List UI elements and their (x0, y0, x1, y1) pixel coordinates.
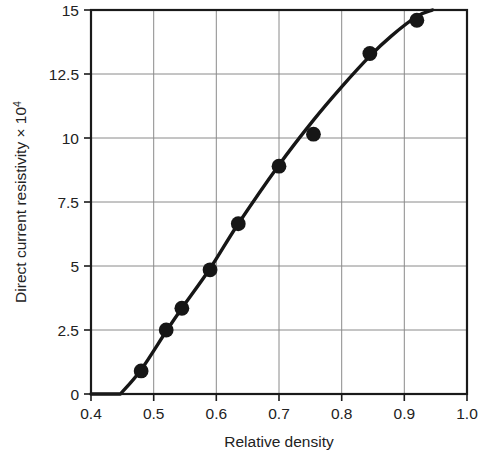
y-tick-label-3: 7.5 (57, 194, 79, 211)
data-point-3 (174, 301, 189, 316)
x-tick-label-5: 0.9 (394, 405, 416, 422)
y-axis-title-group: Direct current resistivity × 104 (11, 101, 29, 303)
x-tick-label-1: 0.5 (143, 405, 165, 422)
data-point-7 (306, 127, 321, 142)
x-tick-label-4: 0.8 (331, 405, 353, 422)
x-tick-label-0: 0.4 (80, 405, 102, 422)
y-axis-title-exponent: 4 (11, 101, 23, 107)
x-tick-label-2: 0.6 (206, 405, 228, 422)
y-tick-label-5: 12.5 (49, 66, 79, 83)
x-axis-title: Relative density (224, 433, 334, 450)
y-axis-title-mantissa: × 10 (12, 107, 29, 138)
y-tick-label-2: 5 (70, 258, 79, 275)
data-point-5 (231, 216, 246, 231)
data-point-1 (134, 364, 149, 379)
x-tick-label-3: 0.7 (268, 405, 290, 422)
data-point-8 (362, 46, 377, 61)
y-tick-label-6: 15 (62, 2, 79, 19)
data-point-6 (272, 159, 287, 174)
data-point-9 (409, 13, 424, 28)
y-axis-title: Direct current resistivity × 104 (11, 101, 29, 303)
y-tick-label-4: 10 (62, 130, 80, 147)
y-tick-label-0: 0 (70, 386, 79, 403)
resistivity-vs-density-chart: 15 12.5 10 7.5 5 2.5 0 0.4 0.5 0.6 0.7 0… (0, 0, 480, 459)
y-tick-labels: 15 12.5 10 7.5 5 2.5 0 (49, 2, 80, 403)
x-tick-label-6: 1.0 (456, 405, 478, 422)
chart-figure: 15 12.5 10 7.5 5 2.5 0 0.4 0.5 0.6 0.7 0… (0, 0, 480, 459)
data-point-4 (203, 262, 218, 277)
y-tick-label-1: 2.5 (57, 322, 79, 339)
data-point-2 (159, 323, 174, 338)
y-axis-title-base: Direct current resistivity (12, 142, 29, 303)
x-tick-labels: 0.4 0.5 0.6 0.7 0.8 0.9 1.0 (80, 405, 478, 422)
